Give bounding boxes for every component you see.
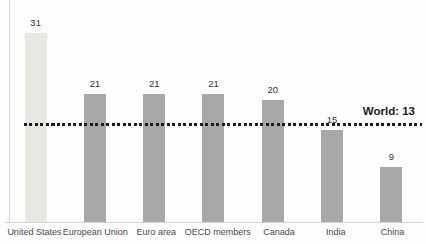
category-labels-row: United StatesEuropean UnionEuro areaOECD…: [6, 227, 421, 237]
bar-column: 31: [6, 0, 65, 222]
bar-value-label: 21: [90, 78, 101, 89]
bar-category-label: United States: [6, 227, 63, 237]
bar-category-label: India: [307, 227, 364, 237]
world-reference-line: [24, 123, 422, 126]
bar-category-label: Euro area: [128, 227, 185, 237]
bar: [202, 94, 224, 222]
bars-row: 3121212120159: [6, 0, 421, 222]
bar-category-label: European Union: [63, 227, 128, 237]
bar-value-label: 20: [267, 84, 278, 95]
bar-value-label: 21: [208, 78, 219, 89]
bar-value-label: 9: [389, 151, 394, 162]
bar-column: 20: [243, 0, 302, 222]
bar-category-label: China: [364, 227, 421, 237]
bar-column: 15: [302, 0, 361, 222]
bar-column: 21: [184, 0, 243, 222]
bar-value-label: 31: [30, 17, 41, 28]
bar-category-label: OECD members: [185, 227, 251, 237]
bar-value-label: 21: [149, 78, 160, 89]
bar-column: 21: [125, 0, 184, 222]
bar-chart: 3121212120159 World: 13 United StatesEur…: [0, 0, 426, 244]
bar: [262, 100, 284, 222]
bar: [380, 167, 402, 222]
x-axis-line: [4, 222, 423, 223]
bar: [321, 130, 343, 222]
bar-category-label: Canada: [251, 227, 308, 237]
bar-column: 21: [65, 0, 124, 222]
world-reference-label: World: 13: [363, 105, 415, 117]
bar: [25, 33, 47, 222]
bar: [84, 94, 106, 222]
bar: [143, 94, 165, 222]
